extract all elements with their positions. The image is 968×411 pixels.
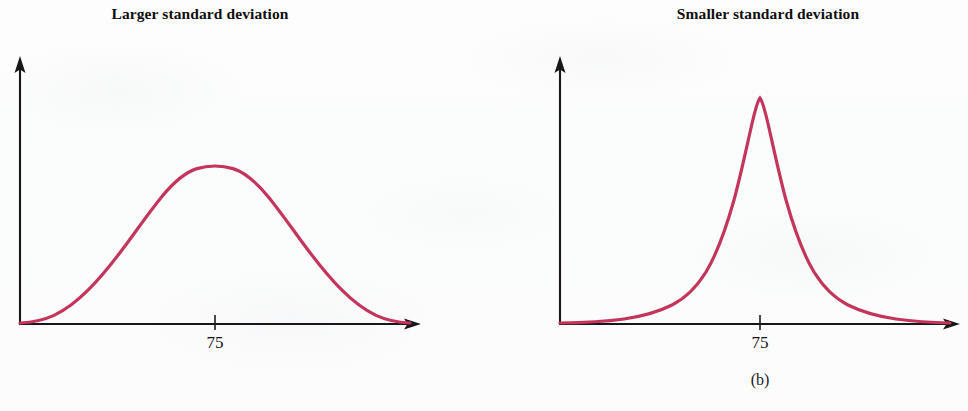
- panel-smaller-standard-deviation: Smaller standard deviation 75 (b): [484, 0, 968, 411]
- panel-b-normal-curve: [560, 98, 950, 323]
- panel-a-plot: 75: [0, 0, 484, 411]
- panel-a-caption: (a): [0, 371, 220, 389]
- normal-distribution-comparison-figure: Larger standard deviation 75 (a) Smaller…: [0, 0, 968, 411]
- panel-a-normal-curve: [20, 166, 410, 323]
- panel-larger-standard-deviation: Larger standard deviation 75 (a): [0, 0, 484, 411]
- panel-a-tick-label: 75: [207, 333, 224, 352]
- panel-b-tick-label: 75: [752, 333, 769, 352]
- panel-b-caption: (b): [518, 371, 968, 389]
- panel-b-plot: 75: [484, 0, 968, 411]
